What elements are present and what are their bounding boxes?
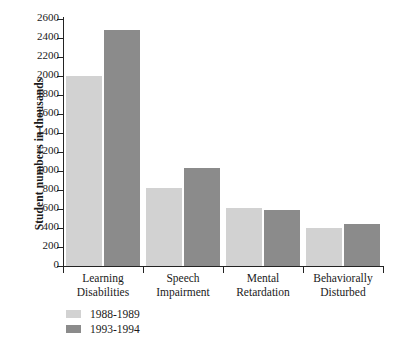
bar-1988-1989-group-2 <box>146 188 182 266</box>
y-tick-label: 600 <box>43 201 60 213</box>
legend-label: 1993-1994 <box>90 323 140 335</box>
bar-1993-1994-group-3 <box>264 210 300 266</box>
y-tick-label: 800 <box>43 182 60 194</box>
x-axis-label-line: Behaviorally <box>283 272 394 286</box>
chart-legend: 1988-19891993-1994 <box>66 307 140 337</box>
legend-swatch-1988-1989 <box>66 310 81 318</box>
x-axis-label-4: BehaviorallyDisturbed <box>283 272 394 299</box>
bar-1993-1994-group-2 <box>184 168 220 266</box>
bar-chart-figure: Student numbers in thousands 02004006008… <box>0 0 394 350</box>
bar-1988-1989-group-4 <box>306 228 342 266</box>
bar-1993-1994-group-4 <box>344 224 380 266</box>
y-tick-label: 2000 <box>37 68 59 80</box>
y-tick-label: 0 <box>54 258 60 270</box>
y-tick-label: 1800 <box>37 87 59 99</box>
y-tick-label: 1600 <box>37 106 59 118</box>
y-tick-label: 200 <box>43 239 60 251</box>
y-tick-label: 1000 <box>37 163 59 175</box>
legend-item-1988-1989: 1988-1989 <box>66 307 140 320</box>
legend-swatch-1993-1994 <box>66 325 81 333</box>
legend-label: 1988-1989 <box>90 308 140 320</box>
y-tick-label: 2200 <box>37 49 59 61</box>
legend-item-1993-1994: 1993-1994 <box>66 322 140 335</box>
bar-1988-1989-group-3 <box>226 208 262 266</box>
y-tick-label: 400 <box>43 220 60 232</box>
x-axis-label-line: Disturbed <box>283 286 394 300</box>
y-tick-label: 2400 <box>37 30 59 42</box>
bar-1988-1989-group-1 <box>66 76 102 266</box>
y-tick-label: 2600 <box>37 11 59 23</box>
bar-1993-1994-group-1 <box>104 30 140 266</box>
plot-area: 0200400600800100012001400160018002000220… <box>63 19 383 266</box>
y-tick-label: 1400 <box>37 125 59 137</box>
y-tick-label: 1200 <box>37 144 59 156</box>
